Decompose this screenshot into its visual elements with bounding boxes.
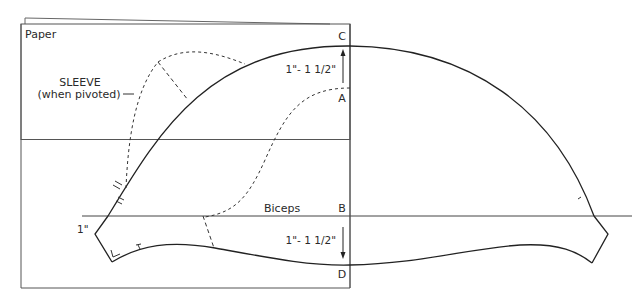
- sleeve-cap-curve: [108, 46, 594, 216]
- pivot-slash-line: [158, 62, 188, 100]
- sleeve-pattern-diagram: Paper SLEEVE (when pivoted) C A B D Bice…: [0, 0, 643, 303]
- left-underarm-edge: [95, 216, 112, 262]
- lower-slash-line: [203, 216, 214, 248]
- original-cap-dashed-curve: [205, 88, 350, 217]
- sleeve-pivot-label: (when pivoted): [37, 88, 120, 101]
- hem-curve: [112, 244, 592, 265]
- pivoted-sleeve-dashed-curve: [126, 52, 245, 188]
- back-paper-sheet: [25, 18, 330, 24]
- biceps-label: Biceps: [264, 202, 300, 215]
- cap-extension-label: 1"- 1 1/2": [286, 63, 336, 75]
- cap-extension-arrow: [341, 49, 346, 83]
- paper-label: Paper: [25, 28, 57, 41]
- hem-extension-label: 1"- 1 1/2": [286, 234, 336, 246]
- right-underarm-edge: [592, 216, 608, 263]
- point-c-label: C: [338, 30, 346, 43]
- point-d-label: D: [338, 268, 346, 281]
- hem-extension-arrow: [341, 227, 346, 259]
- point-a-label: A: [338, 92, 346, 105]
- point-b-label: B: [338, 202, 346, 215]
- side-offset-label: 1": [77, 223, 89, 235]
